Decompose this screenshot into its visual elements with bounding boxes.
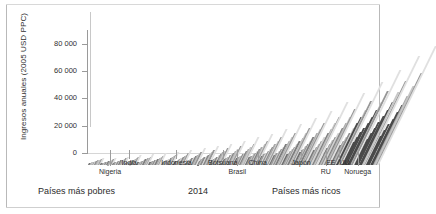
y-tick-60000 xyxy=(82,71,87,72)
y-tick-label-0: 0 xyxy=(31,148,77,157)
country-label-noruega: Noruega xyxy=(332,168,384,175)
caption-poorest: Países más pobres xyxy=(38,186,115,196)
y-tick-label-40000: 40 000 xyxy=(31,93,77,102)
y-tick-label-20000: 20 000 xyxy=(31,121,77,130)
country-tick-indonesia xyxy=(176,150,177,159)
country-label-india: India xyxy=(103,159,155,166)
figure-border-bottom xyxy=(6,207,380,208)
y-axis-title: Ingresos anuales (2005 USD PPC) xyxy=(19,2,28,152)
bar-series-income xyxy=(88,12,378,154)
figure-border-left xyxy=(6,4,7,208)
y-tick-0 xyxy=(82,153,87,154)
country-label-indonesia: Indonesia xyxy=(150,159,202,166)
figure-border-top xyxy=(6,4,380,5)
country-tick-india xyxy=(129,150,130,159)
y-tick-80000 xyxy=(82,44,87,45)
country-tick-botsuana xyxy=(223,150,224,159)
bar-income-decile xyxy=(377,46,436,165)
country-tick-ee-uu xyxy=(339,150,340,159)
caption-year: 2014 xyxy=(188,186,208,196)
country-tick-china xyxy=(258,150,259,159)
caption-richest: Países más ricos xyxy=(272,186,341,196)
y-tick-40000 xyxy=(82,98,87,99)
y-tick-label-80000: 80 000 xyxy=(31,39,77,48)
country-label-brasil: Brasil xyxy=(211,168,263,175)
y-tick-label-60000: 60 000 xyxy=(31,66,77,75)
country-tick-noruega xyxy=(358,150,359,166)
y-tick-20000 xyxy=(82,126,87,127)
country-tick-jap-n xyxy=(301,150,302,159)
country-label-nigeria: Nigeria xyxy=(84,168,136,175)
